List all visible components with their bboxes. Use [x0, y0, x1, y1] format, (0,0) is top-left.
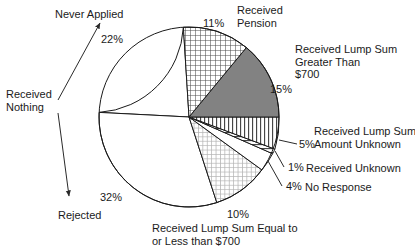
percent-never-applied: 22%	[101, 33, 123, 45]
percent-lump-sum-amount-unknown: 5%	[299, 138, 315, 150]
leader-line-lump-sum-amount-unknown	[279, 140, 297, 144]
lump-gt-line3: $700	[295, 68, 319, 80]
label-lump-sum-amount-unknown: Received Lump Sum Amount Unknown	[314, 125, 415, 150]
percent-no-response: 4%	[286, 180, 302, 192]
label-lump-sum-le-700: Received Lump Sum Equal to or Less than …	[152, 222, 298, 247]
percent-received-pension: 11%	[203, 17, 224, 29]
label-never-applied: Never Applied	[55, 8, 124, 21]
percent-received-unknown: 1%	[288, 161, 304, 173]
arrow-never-applied	[58, 23, 100, 100]
lump-le-line1: Received Lump Sum Equal to	[152, 222, 298, 234]
label-rejected: Rejected	[58, 209, 101, 222]
label-received-pension: Received Pension	[237, 4, 283, 29]
received-pension-line1: Received	[237, 4, 283, 16]
received-nothing-line2: Nothing	[6, 101, 44, 113]
annotation-received-nothing: Received Nothing	[6, 88, 52, 113]
leader-line-no-response	[268, 161, 282, 186]
percent-rejected: 32%	[100, 191, 122, 203]
pie-chart-figure: Received Nothing Never Applied 22% 32% R…	[0, 0, 415, 247]
lump-le-line2: or Less than $700	[152, 235, 240, 247]
received-nothing-line1: Received	[6, 88, 52, 100]
label-no-response: No Response	[305, 181, 372, 194]
label-lump-sum-gt-700: Received Lump Sum Greater Than $700	[295, 43, 397, 81]
percent-lump-sum-le-700: 10%	[227, 208, 249, 220]
lump-gt-line1: Received Lump Sum	[295, 43, 397, 55]
label-received-unknown: Received Unknown	[306, 162, 401, 175]
percent-lump-sum-gt-700: 15%	[270, 83, 292, 95]
leader-line-received-unknown	[275, 151, 284, 167]
lump-unknown-line1: Received Lump Sum	[314, 125, 415, 137]
lump-gt-line2: Greater Than	[295, 56, 360, 68]
lump-unknown-line2: Amount Unknown	[314, 138, 401, 150]
received-pension-line2: Pension	[237, 17, 277, 29]
arrow-rejected	[58, 113, 69, 196]
